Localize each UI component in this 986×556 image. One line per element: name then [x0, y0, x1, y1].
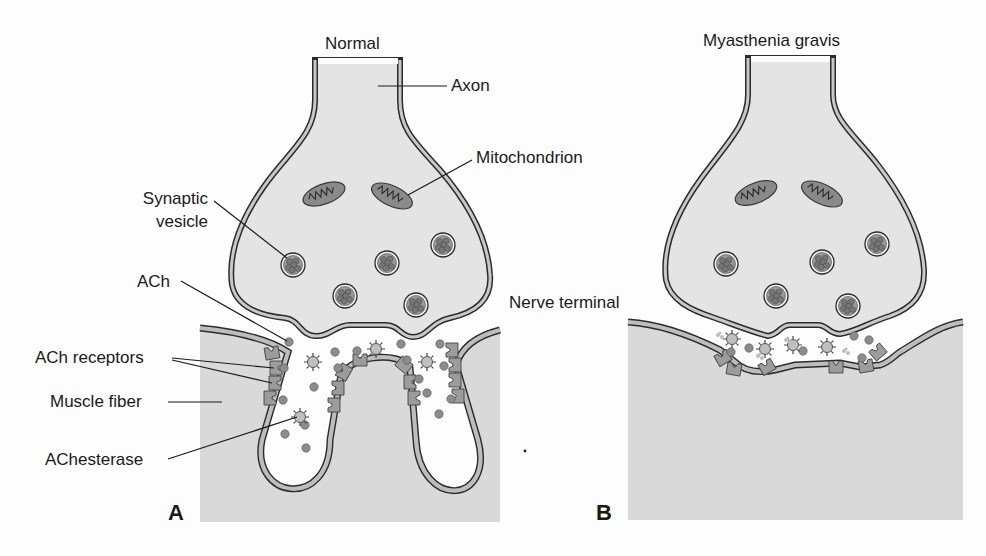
synaptic-vesicle-icon [333, 284, 357, 308]
panel-a [168, 58, 500, 522]
label-ach: ACh [137, 272, 170, 292]
label-muscle-fiber: Muscle fiber [50, 392, 142, 412]
synaptic-vesicle-icon [714, 252, 738, 276]
label-achesterase: AChesterase [45, 450, 143, 470]
label-synaptic-vesicle-line1: Synaptic [124, 189, 208, 209]
synaptic-vesicle-icon [375, 251, 399, 275]
panel-b-title: Myasthenia gravis [703, 31, 840, 51]
synaptic-vesicle-icon [431, 233, 455, 257]
muscle-fiber-b [628, 322, 963, 520]
nerve-terminal-b [665, 58, 924, 336]
stray-dot [524, 450, 527, 453]
label-nerve-terminal: Nerve terminal [509, 293, 620, 313]
synaptic-vesicle-icon [404, 293, 428, 317]
label-synaptic-vesicle-line2: vesicle [124, 212, 208, 232]
synaptic-vesicle-icon [810, 250, 834, 274]
nerve-terminal-a [231, 60, 490, 337]
achesterase-b [723, 330, 836, 358]
panel-a-title: Normal [325, 34, 380, 54]
label-ach-receptors: ACh receptors [35, 348, 144, 368]
synaptic-vesicle-icon [764, 284, 788, 308]
label-mitochondrion: Mitochondrion [476, 148, 583, 168]
synaptic-vesicle-icon [865, 232, 889, 256]
synaptic-vesicle-icon [836, 294, 860, 318]
ach-molecules-b [727, 332, 873, 362]
panel-b [628, 56, 963, 520]
panel-b-letter: B [596, 500, 612, 525]
label-axon: Axon [451, 76, 490, 96]
panel-a-letter: A [168, 500, 184, 525]
figure: Normal Axon Mitochondrion Synaptic vesic… [0, 0, 986, 556]
